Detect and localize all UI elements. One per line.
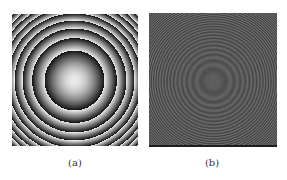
interference-fringe-pattern bbox=[149, 13, 277, 147]
caption-b: (b) bbox=[205, 157, 219, 168]
wrapped-phase-map bbox=[12, 14, 138, 146]
panel-a-wrapped-phase-image bbox=[12, 14, 138, 146]
panel-b-fringe-image bbox=[149, 13, 277, 147]
caption-a: (a) bbox=[68, 157, 82, 168]
